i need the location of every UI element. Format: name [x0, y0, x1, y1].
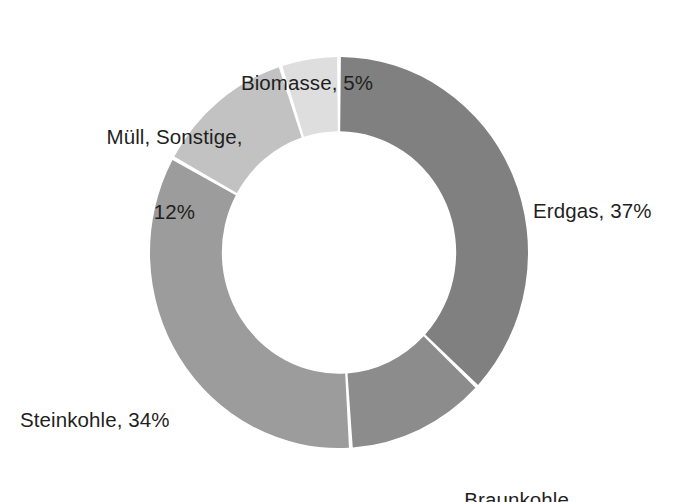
slice-label-braunkohle-line1: Braunkohle, — [437, 487, 602, 502]
slice-label-erdgas-line1: Erdgas, 37% — [533, 198, 677, 223]
slice-label-steinkohle-line1: Steinkohle, 34% — [20, 407, 240, 432]
slice-label-muell-sonstige-line2: 12% — [72, 199, 277, 224]
slice-label-steinkohle: Steinkohle, 34% — [20, 357, 240, 482]
slice-label-erdgas: Erdgas, 37% — [533, 148, 677, 273]
slice-label-muell-sonstige-line1: Müll, Sonstige, — [72, 124, 277, 149]
slice-label-muell-sonstige: Müll, Sonstige, 12% — [72, 74, 277, 274]
slice-label-braunkohle: Braunkohle, 12% — [437, 437, 602, 502]
donut-chart: Biomasse, 5% Müll, Sonstige, 12% Erdgas,… — [0, 0, 677, 502]
